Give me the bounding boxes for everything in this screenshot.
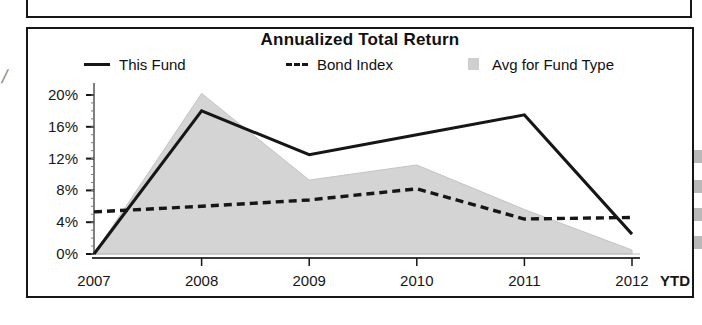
svg-text:20%: 20% [48, 86, 78, 103]
svg-text:YTD: YTD [660, 272, 690, 289]
y-axis-tick-labels: 20%16%12%8%4%0% [48, 86, 78, 262]
svg-text:2010: 2010 [400, 272, 433, 289]
svg-text:8%: 8% [56, 181, 78, 198]
svg-text:0%: 0% [56, 245, 78, 262]
chart-plot-svg: 20%16%12%8%4%0% 200720082009201020112012… [28, 29, 696, 300]
scan-edge-artifact: / [0, 66, 20, 88]
avg-for-fund-type-area [94, 93, 632, 254]
plot-area: 20%16%12%8%4%0% 200720082009201020112012… [28, 29, 696, 300]
svg-text:2011: 2011 [508, 272, 540, 289]
svg-text:4%: 4% [56, 213, 78, 230]
svg-text:2012: 2012 [615, 272, 648, 289]
svg-text:12%: 12% [48, 150, 78, 167]
upper-panel-frame [26, 0, 692, 18]
svg-text:2007: 2007 [77, 272, 110, 289]
svg-text:2008: 2008 [185, 272, 218, 289]
x-axis-tick-labels: 200720082009201020112012YTD [77, 272, 690, 289]
svg-text:2009: 2009 [293, 272, 326, 289]
svg-text:16%: 16% [48, 118, 78, 135]
annualized-total-return-chart: Annualized Total Return This Fund Bond I… [26, 27, 694, 298]
